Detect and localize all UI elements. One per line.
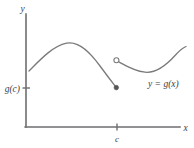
figure-container: y x g(c) c y = g(x)	[0, 0, 194, 148]
graph-svg: y x g(c) c y = g(x)	[0, 0, 194, 148]
y-axis-label: y	[19, 4, 25, 14]
closed-circle-marker	[114, 85, 119, 90]
y-value-label-gc: g(c)	[5, 84, 20, 95]
open-circle-marker	[114, 58, 119, 63]
curve-left-branch	[29, 43, 115, 87]
function-label: y = g(x)	[147, 79, 179, 90]
x-value-label-c: c	[115, 134, 119, 144]
x-axis-label: x	[182, 123, 188, 133]
curve-right-branch	[119, 47, 186, 73]
